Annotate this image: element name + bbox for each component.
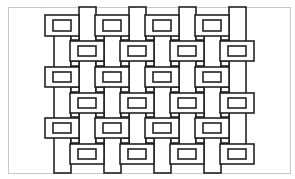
horizontal-block bbox=[195, 15, 229, 36]
vertical-band bbox=[154, 30, 171, 173]
vertical-band bbox=[179, 7, 196, 150]
vertical-band bbox=[229, 7, 246, 150]
horizontal-block bbox=[220, 144, 254, 164]
block-inner-window bbox=[78, 149, 96, 159]
block-inner-window bbox=[178, 149, 196, 159]
block-inner-window bbox=[103, 20, 121, 31]
block-inner-window bbox=[103, 72, 121, 82]
block-inner-window bbox=[178, 98, 196, 108]
horizontal-block bbox=[170, 93, 204, 113]
block-inner-window bbox=[78, 98, 96, 108]
horizontal-block bbox=[195, 67, 229, 87]
vertical-band bbox=[54, 30, 71, 173]
vertical-band bbox=[204, 30, 221, 173]
horizontal-block bbox=[70, 93, 104, 113]
block-inner-window bbox=[153, 20, 171, 31]
vertical-band bbox=[104, 30, 121, 173]
horizontal-block bbox=[220, 93, 254, 113]
block-inner-window bbox=[203, 123, 221, 133]
block-inner-window bbox=[128, 98, 146, 108]
block-inner-window bbox=[78, 46, 96, 56]
block-inner-window bbox=[53, 20, 71, 31]
horizontal-block bbox=[220, 41, 254, 61]
vertical-band bbox=[129, 7, 146, 150]
block-inner-window bbox=[203, 72, 221, 82]
block-inner-window bbox=[203, 20, 221, 31]
block-inner-window bbox=[53, 72, 71, 82]
block-inner-window bbox=[53, 123, 71, 133]
horizontal-block bbox=[145, 118, 179, 138]
block-inner-window bbox=[228, 46, 246, 56]
block-inner-window bbox=[228, 98, 246, 108]
horizontal-block bbox=[120, 144, 154, 164]
horizontal-block bbox=[70, 144, 104, 164]
horizontal-block bbox=[45, 118, 79, 138]
block-inner-window bbox=[103, 123, 121, 133]
block-inner-window bbox=[153, 123, 171, 133]
block-inner-window bbox=[153, 72, 171, 82]
woven-lattice-diagram bbox=[0, 0, 295, 179]
horizontal-block bbox=[145, 15, 179, 36]
horizontal-block bbox=[145, 67, 179, 87]
horizontal-block bbox=[195, 118, 229, 138]
horizontal-block bbox=[45, 15, 79, 36]
vertical-band bbox=[79, 7, 96, 150]
block-inner-window bbox=[128, 46, 146, 56]
horizontal-block bbox=[70, 41, 104, 61]
horizontal-block bbox=[95, 118, 129, 138]
horizontal-block bbox=[95, 15, 129, 36]
horizontal-block bbox=[95, 67, 129, 87]
block-inner-window bbox=[228, 149, 246, 159]
horizontal-block bbox=[170, 41, 204, 61]
horizontal-block bbox=[120, 93, 154, 113]
horizontal-block bbox=[45, 67, 79, 87]
block-inner-window bbox=[178, 46, 196, 56]
block-inner-window bbox=[128, 149, 146, 159]
horizontal-block bbox=[120, 41, 154, 61]
horizontal-block bbox=[170, 144, 204, 164]
